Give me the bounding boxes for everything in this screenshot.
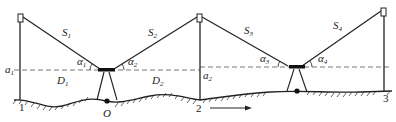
prism-icon [381, 8, 386, 16]
slope-line-s4 [302, 11, 381, 66]
instrument-station-2 [287, 65, 307, 94]
slope-line-s2 [114, 17, 197, 69]
ground-hatching [13, 91, 390, 111]
pole-2 [197, 14, 202, 100]
angle-arc-alpha4 [310, 61, 312, 67]
label-d2: D2 [151, 74, 164, 88]
pole-3 [381, 8, 386, 91]
label-s4: S4 [333, 19, 343, 33]
angle-arc-alpha2 [122, 64, 124, 70]
label-alpha2: α2 [128, 55, 138, 69]
label-alpha1: α1 [77, 55, 86, 69]
label-d1: D1 [56, 74, 68, 88]
slope-line-s1 [23, 17, 100, 69]
label-point-1: 1 [19, 101, 25, 113]
label-station-o: O [103, 107, 111, 119]
label-s3: S3 [244, 24, 254, 38]
label-point-2: 2 [196, 102, 202, 114]
label-point-3: 3 [383, 92, 389, 104]
instrument-icon [289, 65, 305, 69]
prism-icon [18, 14, 23, 22]
label-a1: a1 [5, 63, 14, 77]
angle-arc-alpha3 [278, 61, 280, 67]
trig-leveling-diagram: S1 S2 S3 S4 α1 α2 α3 α4 a1 a2 D1 D2 O 1 … [0, 0, 396, 122]
label-s2: S2 [148, 26, 158, 40]
direction-arrow-icon [210, 106, 252, 111]
prism-icon [197, 14, 202, 22]
label-alpha4: α4 [318, 52, 328, 66]
station-point-2 [294, 88, 299, 93]
instrument-station-o [97, 68, 117, 104]
station-point-o [104, 98, 109, 103]
instrument-icon [98, 68, 115, 72]
pole-1 [18, 14, 23, 100]
ground-line [14, 91, 392, 107]
label-a2: a2 [203, 69, 213, 83]
angle-arc-alpha1 [90, 64, 92, 70]
label-s1: S1 [62, 26, 71, 40]
